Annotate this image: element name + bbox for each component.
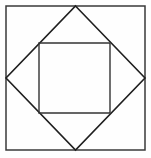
figure-background xyxy=(0,0,151,158)
figure-canvas xyxy=(0,0,151,158)
geometry-figure: Nested squares and inscribed diamond A l… xyxy=(0,0,151,158)
